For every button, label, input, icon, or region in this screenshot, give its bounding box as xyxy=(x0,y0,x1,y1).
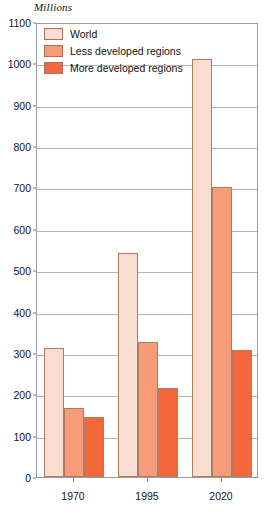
bar xyxy=(118,253,138,477)
legend-swatch-icon xyxy=(44,45,63,57)
x-tick-label: 2020 xyxy=(209,490,232,502)
x-axis: 197019952020 xyxy=(36,478,258,514)
y-tick-label: 600 xyxy=(13,224,31,236)
legend-item: More developed regions xyxy=(44,60,183,75)
bar xyxy=(84,417,104,477)
y-tick-label: 400 xyxy=(13,307,31,319)
bar xyxy=(212,187,232,477)
y-tick-label: 1100 xyxy=(8,17,31,29)
y-tick-label: 900 xyxy=(13,100,31,112)
legend: WorldLess developed regionsMore develope… xyxy=(44,26,183,77)
x-tick-mark xyxy=(73,478,74,482)
y-tick-label: 200 xyxy=(13,389,31,401)
y-axis-unit-caption: Millions xyxy=(34,1,72,13)
bar xyxy=(158,388,178,477)
legend-item: World xyxy=(44,26,183,41)
bars-layer xyxy=(37,24,257,477)
y-tick-label: 800 xyxy=(13,141,31,153)
plot-area xyxy=(36,23,258,478)
y-tick-label: 500 xyxy=(13,265,31,277)
legend-swatch-icon xyxy=(44,62,63,74)
legend-item-label: More developed regions xyxy=(70,62,183,74)
x-tick-mark xyxy=(221,478,222,482)
legend-item: Less developed regions xyxy=(44,43,183,58)
y-axis: 010020030040050060070080090010001100 xyxy=(0,0,36,514)
x-tick-mark xyxy=(147,478,148,482)
bar xyxy=(138,342,158,477)
legend-item-label: World xyxy=(70,28,97,40)
legend-item-label: Less developed regions xyxy=(70,45,181,57)
bar xyxy=(192,59,212,477)
x-tick-label: 1970 xyxy=(61,490,84,502)
bar xyxy=(232,350,252,477)
legend-swatch-icon xyxy=(44,28,63,40)
y-tick-label: 300 xyxy=(13,348,31,360)
x-tick-label: 1995 xyxy=(135,490,158,502)
y-tick-label: 0 xyxy=(25,472,31,484)
y-tick-label: 700 xyxy=(13,182,31,194)
population-bar-chart: Millions 0100200300400500600700800900100… xyxy=(0,0,272,514)
bar xyxy=(44,348,64,477)
y-tick-label: 100 xyxy=(13,431,31,443)
y-tick-label: 1000 xyxy=(8,58,31,70)
bar xyxy=(64,408,84,477)
